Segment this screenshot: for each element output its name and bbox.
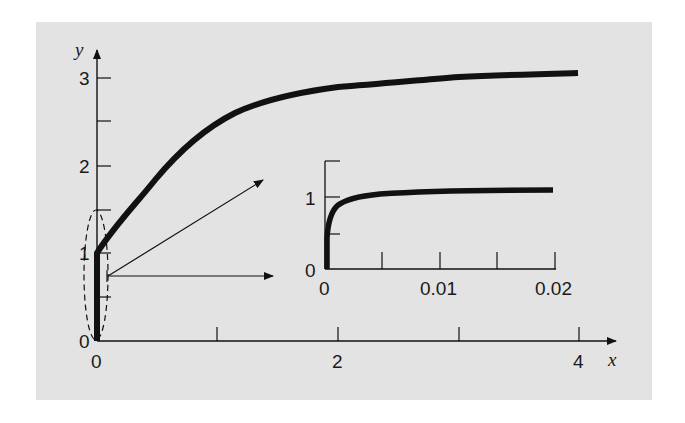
x-tick-label-0: 0: [91, 351, 102, 372]
inset-x-tick-label-0: 0: [319, 278, 330, 299]
inset-y-tick-label-0: 0: [305, 260, 316, 281]
y-tick-label-3: 3: [79, 68, 90, 89]
inset-y-tick-label-1: 1: [305, 188, 316, 209]
inset-x-tick-label-0.01: 0.01: [420, 278, 457, 299]
y-tick-label-0: 0: [79, 331, 90, 352]
x-tick-label-2: 2: [332, 351, 343, 372]
x-axis-label: x: [607, 349, 617, 370]
y-tick-label-1: 1: [79, 243, 90, 264]
y-tick-label-2: 2: [79, 156, 90, 177]
inset-x-tick-label-0.02: 0.02: [535, 278, 572, 299]
x-tick-label-4: 4: [573, 351, 584, 372]
figure: 3 2 1 0 0 2 4 y x: [0, 0, 685, 423]
chart-svg: 3 2 1 0 0 2 4 y x: [0, 0, 685, 423]
y-axis-label: y: [73, 39, 84, 60]
